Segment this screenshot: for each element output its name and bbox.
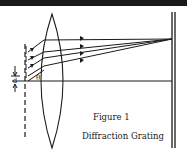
spacing-label: d (13, 77, 18, 85)
figure-number: Figure 1 (93, 112, 130, 122)
figure-title: Diffraction Grating (82, 131, 164, 141)
angle-label: θ (36, 74, 40, 82)
